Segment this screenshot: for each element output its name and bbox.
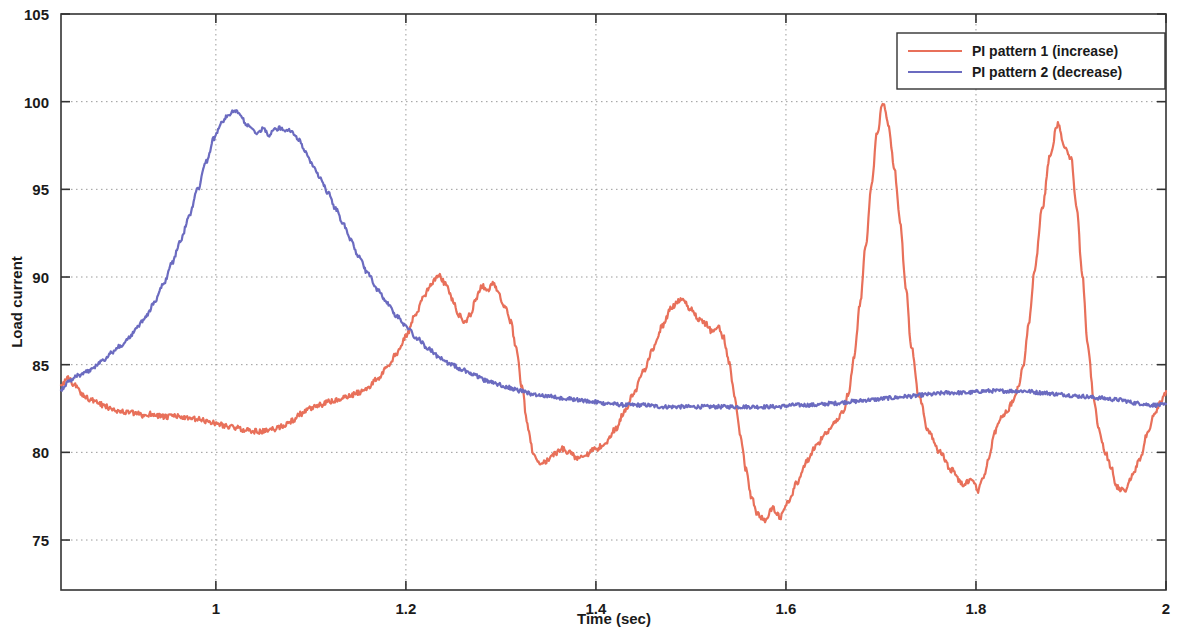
y-tick-label: 90 bbox=[32, 269, 49, 286]
x-axis-title: Time (sec) bbox=[577, 610, 651, 627]
chart-legend: PI pattern 1 (increase) PI pattern 2 (de… bbox=[897, 33, 1165, 89]
y-tick-label: 75 bbox=[32, 532, 49, 549]
legend-label-series-2: PI pattern 2 (decrease) bbox=[972, 64, 1122, 80]
chart-figure: 7580859095100105 11.21.41.61.82 Load cur… bbox=[0, 0, 1179, 632]
y-tick-label: 105 bbox=[24, 6, 49, 23]
chart-background bbox=[0, 0, 1179, 632]
load-current-line-chart: 7580859095100105 11.21.41.61.82 Load cur… bbox=[0, 0, 1179, 632]
y-axis-title: Load current bbox=[8, 256, 25, 348]
legend-label-series-1: PI pattern 1 (increase) bbox=[972, 43, 1118, 59]
y-tick-label: 80 bbox=[32, 444, 49, 461]
x-tick-label: 1.6 bbox=[776, 600, 797, 617]
x-tick-label: 1.2 bbox=[395, 600, 416, 617]
y-tick-label: 95 bbox=[32, 181, 49, 198]
x-tick-label: 1.8 bbox=[966, 600, 987, 617]
y-tick-label: 100 bbox=[24, 94, 49, 111]
x-tick-label: 2 bbox=[1162, 600, 1170, 617]
y-tick-label: 85 bbox=[32, 357, 49, 374]
x-tick-label: 1 bbox=[212, 600, 220, 617]
legend-box bbox=[897, 33, 1165, 89]
